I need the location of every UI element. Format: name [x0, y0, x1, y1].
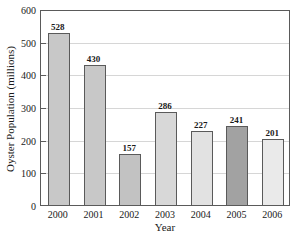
x-tick-label-2004: 2004 — [191, 209, 211, 220]
y-tick-label-100: 100 — [21, 168, 36, 179]
bar-value-label-2002: 157 — [123, 143, 137, 153]
y-tick-label-300: 300 — [21, 103, 36, 114]
y-tick-mark-300 — [41, 108, 46, 109]
bar-value-label-2000: 528 — [51, 22, 65, 32]
bar-2004 — [191, 131, 213, 205]
x-tick-label-2006: 2006 — [262, 209, 282, 220]
y-axis-title-text: Oyster Population (millions) — [4, 46, 16, 172]
bar-value-label-2005: 241 — [230, 115, 244, 125]
x-tick-label-2001: 2001 — [84, 209, 104, 220]
bar-value-label-2006: 201 — [265, 128, 279, 138]
y-axis-title: Oyster Population (millions) — [4, 29, 18, 189]
y-tick-label-500: 500 — [21, 37, 36, 48]
bar-value-label-2001: 430 — [87, 54, 101, 64]
bar-2001 — [84, 65, 106, 205]
y-tick-mark-400 — [41, 75, 46, 76]
gridline-y-400 — [41, 75, 289, 76]
bar-2003 — [155, 112, 177, 205]
bar-2002 — [119, 154, 141, 205]
gridline-y-500 — [41, 43, 289, 44]
y-tick-label-0: 0 — [31, 201, 36, 212]
bar-2006 — [262, 139, 284, 205]
bar-2005 — [226, 126, 248, 205]
y-tick-label-200: 200 — [21, 135, 36, 146]
y-tick-mark-200 — [41, 141, 46, 142]
x-tick-label-2003: 2003 — [155, 209, 175, 220]
bar-value-label-2003: 286 — [158, 101, 172, 111]
bar-2000 — [48, 33, 70, 205]
x-axis-title: Year — [40, 221, 290, 233]
x-tick-label-2000: 2000 — [48, 209, 68, 220]
bar-value-label-2004: 227 — [194, 120, 208, 130]
oyster-population-bar-chart: Oyster Population (millions) Year 010020… — [0, 0, 295, 238]
y-tick-mark-100 — [41, 173, 46, 174]
y-tick-label-400: 400 — [21, 70, 36, 81]
x-tick-label-2005: 2005 — [226, 209, 246, 220]
x-tick-label-2002: 2002 — [119, 209, 139, 220]
y-tick-mark-500 — [41, 43, 46, 44]
y-tick-label-600: 600 — [21, 5, 36, 16]
